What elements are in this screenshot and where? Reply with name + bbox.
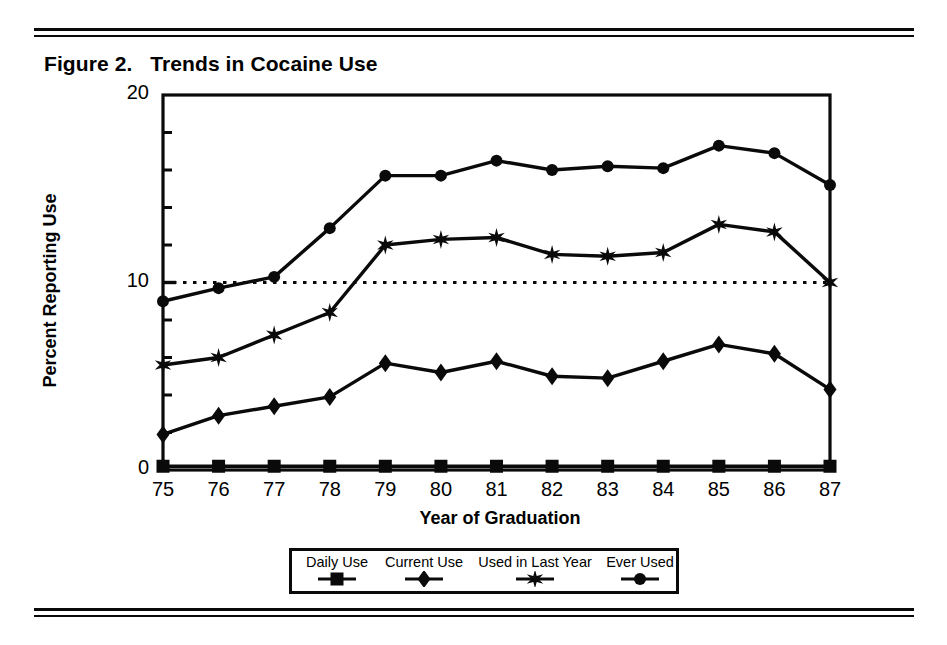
y-tick-label: 0 bbox=[87, 456, 149, 479]
legend-entry: Ever Used bbox=[598, 553, 682, 587]
data-point-diamond bbox=[546, 367, 559, 385]
data-point-circle bbox=[546, 164, 558, 176]
legend-marker-diamond bbox=[376, 571, 472, 587]
x-tick-label: 82 bbox=[522, 478, 582, 501]
data-point-diamond bbox=[212, 407, 225, 425]
legend-entry: Daily Use bbox=[298, 553, 376, 587]
x-axis-title: Year of Graduation bbox=[160, 508, 840, 529]
x-tick-label: 87 bbox=[800, 478, 860, 501]
data-point-diamond bbox=[824, 380, 837, 398]
x-tick-label: 76 bbox=[189, 478, 249, 501]
data-point-diamond bbox=[157, 425, 170, 443]
data-point-circle bbox=[657, 162, 669, 174]
data-point-square bbox=[712, 460, 725, 473]
x-tick-label: 77 bbox=[244, 478, 304, 501]
data-point-circle bbox=[713, 140, 725, 152]
x-tick-label: 85 bbox=[689, 478, 749, 501]
series-used-in-last-year bbox=[155, 215, 838, 375]
legend-entries: Daily UseCurrent UseUsed in Last YearEve… bbox=[292, 551, 676, 591]
legend-box: Daily UseCurrent UseUsed in Last YearEve… bbox=[289, 548, 679, 594]
legend-marker-star bbox=[472, 571, 598, 587]
x-tick-label: 78 bbox=[300, 478, 360, 501]
y-axis-title: Percent Reporting Use bbox=[40, 181, 61, 401]
legend-label: Daily Use bbox=[298, 553, 376, 571]
data-point-circle bbox=[379, 170, 391, 182]
legend-label: Current Use bbox=[376, 553, 472, 571]
y-tick-label: 10 bbox=[87, 269, 149, 292]
legend-label: Ever Used bbox=[598, 553, 682, 571]
x-tick-label: 84 bbox=[633, 478, 693, 501]
x-tick-label: 86 bbox=[744, 478, 804, 501]
data-point-circle bbox=[602, 160, 614, 172]
data-point-circle bbox=[491, 155, 503, 167]
divider-rule-lower bbox=[34, 615, 914, 617]
data-point-diamond bbox=[657, 352, 670, 370]
data-point-diamond bbox=[323, 388, 336, 406]
data-point-circle bbox=[324, 222, 336, 234]
bottom-divider-rules bbox=[34, 608, 914, 617]
data-point-circle bbox=[157, 295, 169, 307]
legend-entry: Used in Last Year bbox=[472, 553, 598, 587]
data-point-diamond bbox=[768, 345, 781, 363]
data-point-circle bbox=[824, 179, 836, 191]
x-tick-label: 80 bbox=[411, 478, 471, 501]
x-tick-label: 83 bbox=[578, 478, 638, 501]
data-point-square bbox=[434, 460, 447, 473]
data-point-star bbox=[266, 326, 282, 345]
legend-entry: Current Use bbox=[376, 553, 472, 587]
data-point-diamond bbox=[712, 335, 725, 353]
data-point-circle bbox=[768, 147, 780, 159]
data-point-circle bbox=[268, 271, 280, 283]
data-point-square bbox=[323, 460, 336, 473]
data-point-square bbox=[601, 460, 614, 473]
data-point-circle bbox=[435, 170, 447, 182]
legend-label: Used in Last Year bbox=[472, 553, 598, 571]
figure-container: Figure 2. Trends in Cocaine Use Percent … bbox=[0, 0, 947, 645]
data-point-square bbox=[157, 460, 170, 473]
data-point-diamond bbox=[601, 369, 614, 387]
data-point-square bbox=[212, 460, 225, 473]
data-point-diamond bbox=[418, 571, 431, 587]
data-point-square bbox=[379, 460, 392, 473]
series-current-use bbox=[157, 335, 837, 443]
data-point-square bbox=[546, 460, 559, 473]
legend-marker-circle bbox=[598, 571, 682, 587]
data-point-square bbox=[268, 460, 281, 473]
legend-marker-square bbox=[298, 571, 376, 587]
data-point-square bbox=[824, 460, 837, 473]
data-point-diamond bbox=[379, 354, 392, 372]
series-layer bbox=[155, 140, 838, 473]
data-point-square bbox=[490, 460, 503, 473]
data-point-circle bbox=[634, 573, 646, 585]
data-point-circle bbox=[213, 282, 225, 294]
data-point-diamond bbox=[434, 364, 447, 382]
y-tick-label: 20 bbox=[87, 81, 149, 104]
data-point-diamond bbox=[268, 397, 281, 415]
x-tick-label: 81 bbox=[467, 478, 527, 501]
data-point-square bbox=[331, 573, 344, 586]
data-point-diamond bbox=[490, 352, 503, 370]
x-tick-label: 79 bbox=[355, 478, 415, 501]
data-point-square bbox=[768, 460, 781, 473]
x-tick-label: 75 bbox=[133, 478, 193, 501]
data-point-square bbox=[657, 460, 670, 473]
